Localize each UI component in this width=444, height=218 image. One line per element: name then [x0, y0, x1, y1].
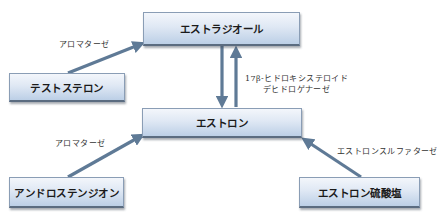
node-estradiol-label: エストラジオール	[180, 21, 264, 36]
node-estrone: エストロン	[142, 108, 302, 138]
enzyme-label-17b-hsd-line1: 17β-ヒドロキシステロイド	[245, 73, 348, 84]
node-estradiol: エストラジオール	[143, 12, 300, 46]
node-testosterone: テストステロン	[9, 73, 125, 102]
enzyme-label-17b-hsd: 17β-ヒドロキシステロイド デヒドロゲナーゼ	[245, 73, 348, 95]
node-estrone-sulfate: エストロン硫酸塩	[299, 177, 420, 208]
node-testosterone-label: テストステロン	[30, 80, 104, 95]
enzyme-label-aromatase-top: アロマターゼ	[59, 39, 109, 50]
enzyme-label-estrone-sulfatase: エストロンスルファターゼ	[337, 146, 438, 157]
node-androstenedione: アンドロステンジオン	[9, 177, 124, 208]
node-estrone-sulfate-label: エストロン硫酸塩	[318, 185, 402, 200]
node-androstenedione-label: アンドロステンジオン	[14, 185, 119, 200]
node-estrone-label: エストロン	[196, 115, 249, 130]
enzyme-label-aromatase-bottom: アロマターゼ	[55, 138, 105, 149]
enzyme-label-17b-hsd-line2: デヒドロゲナーゼ	[245, 84, 348, 95]
